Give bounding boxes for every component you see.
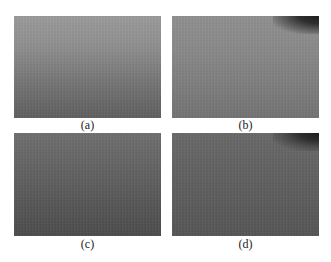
figure: (a) (b) (c) (d) bbox=[0, 0, 331, 262]
caption-b: (b) bbox=[172, 118, 319, 132]
caption-a: (a) bbox=[14, 118, 161, 132]
dark-corner-region bbox=[273, 133, 319, 151]
texture-overlay bbox=[14, 133, 161, 236]
dark-corner-region bbox=[273, 16, 319, 34]
caption-c: (c) bbox=[14, 237, 161, 251]
image-panel-b bbox=[172, 16, 319, 118]
texture-overlay bbox=[14, 16, 161, 118]
caption-d: (d) bbox=[172, 237, 319, 251]
image-panel-c bbox=[14, 133, 161, 236]
image-panel-d bbox=[172, 133, 319, 236]
image-panel-a bbox=[14, 16, 161, 118]
